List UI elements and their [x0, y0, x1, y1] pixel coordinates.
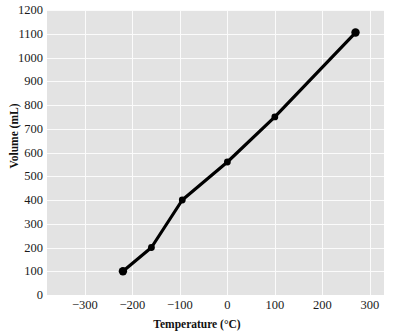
x-axis-title: Temperature (°C) [0, 318, 394, 330]
series-polyline [123, 33, 356, 272]
y-axis-tick-labels: 0100200300400500600700800900100011001200 [0, 0, 43, 336]
data-point-marker [119, 267, 127, 275]
y-axis-tick-label: 300 [3, 218, 43, 231]
x-axis-tick-label: 300 [340, 299, 394, 312]
y-axis-title: Volume (mL) [8, 76, 20, 196]
data-point-marker [351, 28, 359, 36]
data-point-marker [179, 197, 186, 204]
y-axis-tick-label: 1200 [3, 4, 43, 17]
chart-container: 0100200300400500600700800900100011001200… [0, 0, 394, 336]
y-axis-tick-label: 1000 [3, 52, 43, 65]
data-point-marker [224, 159, 231, 166]
data-series-line [47, 10, 384, 295]
data-point-marker [148, 244, 155, 251]
y-axis-tick-label: 1100 [3, 28, 43, 41]
y-axis-tick-label: 200 [3, 242, 43, 255]
data-point-marker [271, 113, 278, 120]
y-axis-tick-label: 100 [3, 265, 43, 278]
plot-area [47, 10, 384, 295]
y-axis-tick-label: 0 [3, 289, 43, 302]
